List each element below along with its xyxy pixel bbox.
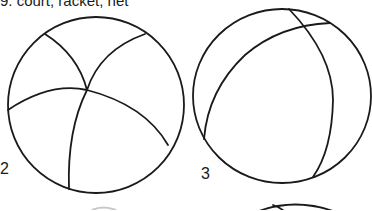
ball-outline-2 — [8, 17, 184, 193]
ball-outline-3 — [193, 9, 371, 183]
ball-figure-2 — [8, 17, 184, 193]
seam-3a — [289, 9, 333, 177]
figure-label-3: 3 — [201, 166, 210, 182]
ball-figure-3 — [193, 9, 371, 183]
seam-2b — [87, 34, 145, 90]
seam-2d — [69, 90, 87, 189]
seam-2c — [8, 88, 168, 145]
figure-label-2: 2 — [0, 161, 9, 177]
ball-illustrations — [0, 0, 372, 210]
partial-figure-right — [259, 205, 333, 211]
seam-3b — [204, 23, 330, 139]
seam-2a — [45, 34, 87, 90]
partial-ball-outline — [259, 205, 333, 211]
partial-figure-left — [92, 208, 116, 211]
